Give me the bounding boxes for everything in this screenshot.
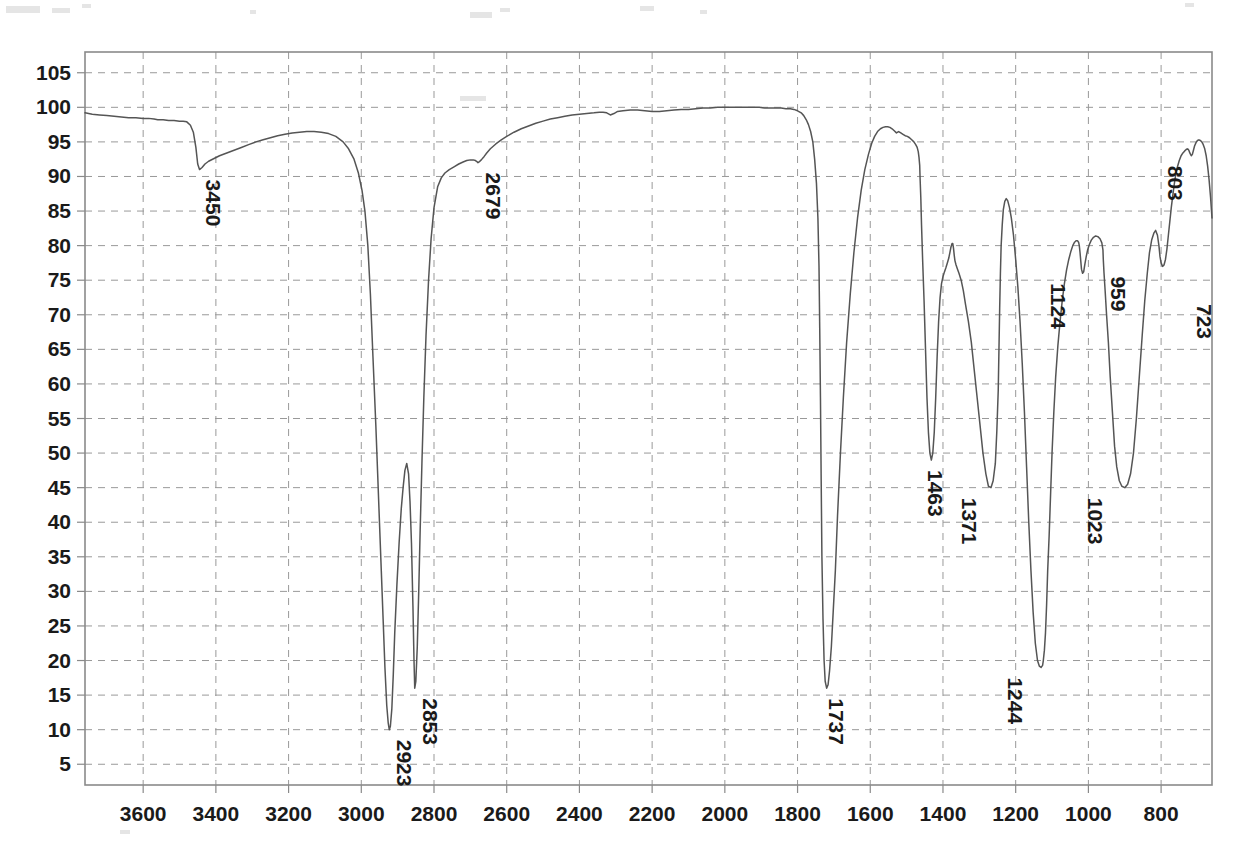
y-tick-label: 70 [48,303,71,326]
y-tick-label: 25 [48,614,72,637]
ir-spectrum-figure: 1051009590858075706560555045403530252015… [0,0,1260,846]
peak-label: 1124 [1047,283,1070,329]
x-tick-label: 3200 [265,802,312,825]
peak-label: 1371 [958,498,981,545]
x-tick-label: 3400 [193,802,240,825]
y-tick-label: 40 [48,510,71,533]
x-tick-label: 2400 [556,802,603,825]
peak-label: 1023 [1084,498,1107,545]
y-tick-label: 105 [36,61,71,84]
peak-label: 1463 [924,470,947,517]
y-tick-label: 10 [48,718,71,741]
y-tick-label: 5 [59,752,71,775]
x-tick-label: 3000 [338,802,385,825]
x-tick-label: 2200 [629,802,676,825]
y-tick-label: 15 [48,683,72,706]
x-tick-label: 1800 [774,802,821,825]
spectrum-chart: 1051009590858075706560555045403530252015… [0,0,1260,846]
x-tick-label: 2600 [483,802,530,825]
y-tick-label: 65 [48,337,72,360]
y-tick-label: 90 [48,164,71,187]
y-tick-label: 20 [48,649,71,672]
x-tick-label: 800 [1144,802,1179,825]
y-tick-label: 80 [48,234,71,257]
peak-label: 959 [1107,276,1130,311]
y-tick-label: 95 [48,130,72,153]
y-tick-label: 45 [48,476,72,499]
peak-label: 723 [1193,304,1216,339]
peak-label: 1737 [825,698,848,745]
peak-label: 2923 [393,740,416,787]
peak-label: 803 [1164,166,1187,201]
peak-label: 2679 [482,173,505,220]
x-axis-labels: 3600340032003000280026002400220020001800… [120,802,1179,825]
x-tick-label: 2000 [701,802,748,825]
y-tick-label: 55 [48,407,72,430]
y-tick-label: 60 [48,372,71,395]
x-tick-label: 1400 [920,802,967,825]
peak-label: 1244 [1004,677,1027,724]
y-tick-label: 30 [48,579,71,602]
y-tick-label: 85 [48,199,72,222]
y-tick-label: 35 [48,545,72,568]
x-tick-label: 3600 [120,802,167,825]
y-tick-label: 50 [48,441,71,464]
peak-label: 3450 [202,180,225,227]
y-axis-labels: 1051009590858075706560555045403530252015… [36,61,71,776]
x-tick-label: 1200 [992,802,1039,825]
x-tick-label: 2800 [411,802,458,825]
y-tick-label: 100 [36,95,71,118]
y-tick-label: 75 [48,268,72,291]
x-tick-label: 1000 [1065,802,1112,825]
x-tick-label: 1600 [847,802,894,825]
peak-label: 2853 [419,698,442,745]
